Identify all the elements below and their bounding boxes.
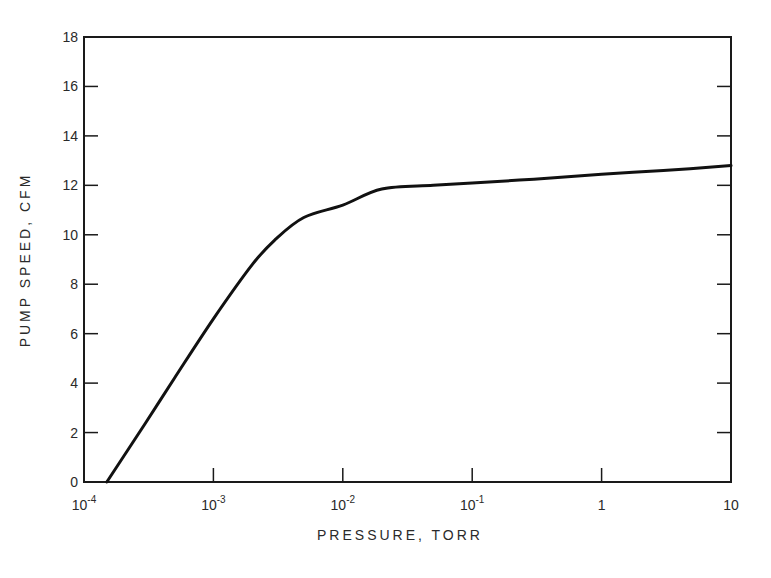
x-axis-ticks: 10-410-310-210-1110 (72, 468, 739, 513)
y-axis-ticks: 024681012141618 (62, 29, 731, 490)
y-tick-label: 6 (70, 326, 78, 342)
x-tick-label: 1 (598, 497, 606, 513)
pump-speed-curve (107, 166, 731, 482)
x-tick-label: 10-2 (331, 494, 356, 513)
y-tick-label: 10 (62, 227, 78, 243)
y-tick-label: 16 (62, 78, 78, 94)
y-tick-label: 18 (62, 29, 78, 45)
y-tick-label: 2 (70, 425, 78, 441)
plot-frame (84, 37, 731, 482)
x-tick-label: 10-1 (460, 494, 485, 513)
y-tick-label: 0 (70, 474, 78, 490)
y-axis-title: PUMP SPEED, CFM (17, 173, 33, 348)
x-tick-label: 10-3 (201, 494, 226, 513)
y-tick-label: 8 (70, 276, 78, 292)
x-tick-label: 10-4 (72, 494, 97, 513)
x-tick-label: 10 (723, 497, 739, 513)
x-axis-title: PRESSURE, TORR (317, 527, 483, 543)
y-tick-label: 4 (70, 375, 78, 391)
y-tick-label: 12 (62, 177, 78, 193)
pump-speed-chart: 024681012141618 10-410-310-210-1110 PRES… (0, 0, 771, 578)
y-tick-label: 14 (62, 128, 78, 144)
